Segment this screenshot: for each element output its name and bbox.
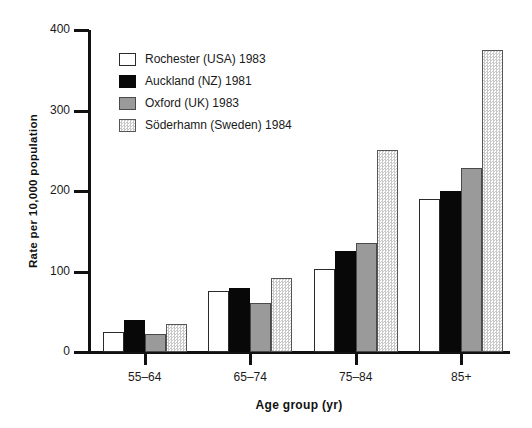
x-tick-mark xyxy=(144,354,147,365)
y-tick-label-wrap: 200 xyxy=(14,184,70,196)
y-tick-mark xyxy=(74,190,89,193)
legend-item: Söderhamn (Sweden) 1984 xyxy=(119,114,349,136)
chart-legend: Rochester (USA) 1983Auckland (NZ) 1981Ox… xyxy=(119,48,349,136)
legend-label: Söderhamn (Sweden) 1984 xyxy=(145,118,292,132)
bar xyxy=(461,168,482,352)
y-tick-mark xyxy=(74,29,89,32)
y-tick-label-wrap: 0 xyxy=(14,345,70,357)
y-tick-label-wrap: 400 xyxy=(14,23,70,35)
bar xyxy=(419,199,440,352)
bar xyxy=(356,243,377,352)
x-axis-title: Age group (yr) xyxy=(88,398,510,412)
bar xyxy=(124,320,145,352)
bar xyxy=(208,291,229,352)
legend-item: Rochester (USA) 1983 xyxy=(119,48,349,70)
bar xyxy=(166,324,187,352)
bar xyxy=(440,191,461,352)
y-tick-label: 0 xyxy=(24,345,70,357)
y-tick-label: 400 xyxy=(24,23,70,35)
bar xyxy=(145,334,166,353)
bar xyxy=(314,269,335,352)
bar xyxy=(377,150,398,352)
legend-item: Auckland (NZ) 1981 xyxy=(119,70,349,92)
y-tick-mark xyxy=(74,271,89,274)
bar xyxy=(229,288,250,352)
y-tick-label-wrap: 100 xyxy=(14,265,70,277)
bar xyxy=(103,332,124,352)
x-tick-mark xyxy=(460,354,463,365)
legend-swatch-icon xyxy=(119,53,136,66)
y-tick-mark xyxy=(74,110,89,113)
x-tick-label: 65–74 xyxy=(205,370,295,384)
x-tick-label: 75–84 xyxy=(311,370,401,384)
legend-swatch-icon xyxy=(119,97,136,110)
y-tick-mark xyxy=(74,351,89,354)
bar-chart: 0100200300400 Rate per 10,000 population… xyxy=(0,0,532,428)
x-tick-mark xyxy=(249,354,252,365)
x-tick-label: 55–64 xyxy=(100,370,190,384)
bar xyxy=(482,50,503,352)
y-tick-label-wrap: 300 xyxy=(14,104,70,116)
bar xyxy=(271,278,292,352)
x-tick-label: 85+ xyxy=(416,370,506,384)
bar xyxy=(250,303,271,352)
legend-swatch-icon xyxy=(119,119,136,132)
x-tick-mark xyxy=(355,354,358,365)
legend-label: Rochester (USA) 1983 xyxy=(145,52,266,66)
legend-label: Oxford (UK) 1983 xyxy=(145,96,239,110)
bar xyxy=(335,251,356,352)
legend-label: Auckland (NZ) 1981 xyxy=(145,74,252,88)
y-axis-title: Rate per 10,000 population xyxy=(27,96,39,286)
legend-item: Oxford (UK) 1983 xyxy=(119,92,349,114)
legend-swatch-icon xyxy=(119,75,136,88)
